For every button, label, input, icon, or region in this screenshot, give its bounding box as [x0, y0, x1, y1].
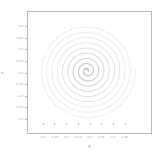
- x-tick-mark: [113, 123, 114, 125]
- scatter-plot-figure: -0.6-0.45-0.3-0.150.00.150.30.45 0.60.45…: [0, 0, 163, 165]
- y-tick-label: -0.15: [8, 83, 23, 86]
- x-tick-label: 0.45: [121, 136, 127, 139]
- scatter-points-layer: [28, 12, 151, 133]
- y-tick-label: -0.6: [8, 117, 23, 120]
- y-tick-mark: [25, 96, 27, 97]
- y-tick-label: 0.3: [8, 48, 23, 51]
- plot-area: [27, 11, 152, 134]
- x-axis-label: X: [27, 145, 152, 149]
- scatter-svg: [28, 12, 151, 133]
- x-tick-mark: [54, 123, 55, 125]
- y-tick-mark: [25, 107, 27, 108]
- y-tick-label: 0.0: [8, 71, 23, 74]
- y-tick-mark: [25, 84, 27, 85]
- x-tick-mark: [66, 123, 67, 125]
- x-tick-mark: [125, 123, 126, 125]
- x-tick-label: 0.0: [87, 136, 92, 139]
- x-tick-mark: [78, 123, 79, 125]
- y-tick-mark: [25, 49, 27, 50]
- x-tick-label: -0.3: [63, 136, 69, 139]
- x-tick-mark: [101, 123, 102, 125]
- x-tick-mark: [43, 123, 44, 125]
- y-tick-mark: [25, 73, 27, 74]
- y-axis-label: Y: [1, 72, 5, 75]
- y-tick-mark: [25, 26, 27, 27]
- x-tick-label: 0.3: [111, 136, 116, 139]
- x-tick-label: -0.45: [51, 136, 58, 139]
- y-tick-mark: [25, 38, 27, 39]
- scatter-point-group: [41, 27, 136, 118]
- y-tick-mark: [25, 119, 27, 120]
- y-tick-label: -0.45: [8, 106, 23, 109]
- x-tick-label: -0.6: [40, 136, 46, 139]
- y-tick-mark: [25, 61, 27, 62]
- y-tick-label: 0.45: [8, 36, 23, 39]
- x-tick-label: 0.15: [98, 136, 104, 139]
- y-tick-label: -0.3: [8, 94, 23, 97]
- x-tick-label: -0.15: [74, 136, 81, 139]
- y-tick-label: 0.15: [8, 60, 23, 63]
- x-tick-mark: [90, 123, 91, 125]
- y-tick-label: 0.6: [8, 25, 23, 28]
